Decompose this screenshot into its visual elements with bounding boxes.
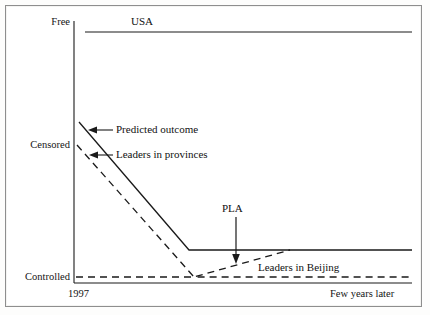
series-line-leaders-in-provinces bbox=[77, 145, 412, 277]
chart-screenshot: Free Censored Controlled 1997 Few years … bbox=[0, 0, 430, 315]
y-tick-label-controlled: Controlled bbox=[10, 272, 70, 283]
annotation-arrow-predicted-outcome bbox=[88, 126, 113, 133]
y-tick-label-censored: Censored bbox=[22, 140, 70, 151]
y-tick-label-free: Free bbox=[32, 17, 70, 28]
x-tick-label-end: Few years later bbox=[330, 289, 394, 300]
chart-plot-area bbox=[0, 0, 430, 315]
annotation-label-leaders-in-provinces: Leaders in provinces bbox=[116, 149, 208, 160]
x-tick-label-start: 1997 bbox=[68, 289, 89, 300]
series-label-leaders-in-beijing: Leaders in Beijing bbox=[258, 262, 339, 273]
annotation-label-predicted-outcome: Predicted outcome bbox=[116, 124, 198, 135]
annotation-label-pla: PLA bbox=[222, 203, 243, 214]
series-line-predicted-outcome bbox=[79, 122, 412, 250]
series-label-usa: USA bbox=[131, 16, 153, 27]
annotation-arrow-pla bbox=[232, 217, 240, 264]
